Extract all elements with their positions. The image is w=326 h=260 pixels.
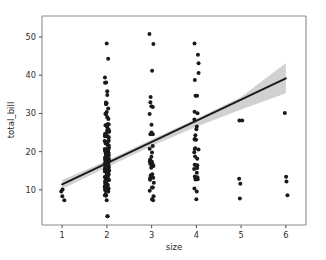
scatter-point [193,133,197,137]
scatter-point [194,138,198,142]
scatter-point [149,173,153,177]
scatter-point [105,89,109,93]
x-tick-label: 4 [194,230,199,240]
scatter-point [148,158,152,162]
scatter-point [104,112,108,116]
scatter-point [238,182,242,186]
scatter-point [149,166,153,170]
scatter-point [150,185,154,189]
scatter-point [151,198,155,202]
scatter-point [104,101,108,105]
y-axis-label: total_bill [6,102,16,139]
scatter-point [197,71,201,75]
scatter-point [196,53,200,57]
scatter-point [192,117,196,121]
scatter-point [284,175,288,179]
y-tick-label: 20 [26,147,36,157]
y-tick-label: 50 [26,32,36,42]
scatter-point [105,214,109,218]
scatter-point [283,111,287,115]
scatter-point [60,194,64,198]
scatter-point [148,112,152,116]
scatter-point [193,41,197,45]
scatter-point [195,163,199,167]
scatter-point [148,100,152,104]
scatter-point [104,194,108,198]
scatter-point [192,167,196,171]
scatter-point [285,193,289,197]
scatter-point [194,127,198,131]
scatter-point [150,151,154,155]
scatter-point [107,122,111,126]
scatter-point [151,42,155,46]
scatter-point [104,81,108,85]
scatter-point [106,172,110,176]
x-tick-label: 5 [239,230,244,240]
scatter-point [193,78,197,82]
plot-area-background [42,16,306,225]
scatter-point [103,134,107,138]
y-tick-label: 30 [26,108,36,118]
regression-scatter-plot: 1020304050 123456 size total_bill [0,0,326,260]
scatter-point [238,196,242,200]
scatter-point [195,171,199,175]
x-axis-label: size [166,242,183,252]
scatter-point [106,57,110,61]
x-tick-label: 2 [104,230,109,240]
scatter-point [193,155,197,159]
scatter-point [152,181,156,185]
scatter-point [105,42,109,46]
matplotlib-figure: 1020304050 123456 size total_bill [0,0,326,260]
scatter-point [237,119,241,123]
scatter-point [149,104,153,108]
scatter-point [62,198,66,202]
scatter-point [106,156,110,160]
scatter-point [107,160,111,164]
x-axis-ticks: 123456 [60,225,289,240]
scatter-point [59,190,63,194]
scatter-point [105,198,109,202]
scatter-point [197,148,201,152]
scatter-point [104,187,108,191]
scatter-point [148,189,152,193]
scatter-point [149,95,153,99]
x-tick-label: 1 [60,230,65,240]
scatter-point [197,61,201,65]
y-tick-label: 10 [26,185,36,195]
scatter-point [192,187,196,191]
scatter-point [195,94,199,98]
scatter-point [237,177,241,181]
scatter-point [107,139,111,143]
x-tick-label: 6 [283,230,288,240]
scatter-point [192,150,196,154]
scatter-point [147,32,151,36]
scatter-point [150,123,154,127]
y-tick-label: 40 [26,70,36,80]
scatter-point [105,93,109,97]
scatter-point [103,75,107,79]
scatter-point [148,147,152,151]
scatter-point [194,197,198,201]
y-axis-ticks: 1020304050 [26,32,42,195]
scatter-point [196,111,200,115]
scatter-point [103,179,107,183]
scatter-point [148,178,152,182]
scatter-point [195,175,199,179]
scatter-point [148,132,152,136]
scatter-point [103,165,107,169]
x-tick-label: 3 [149,230,154,240]
scatter-point [150,69,154,73]
scatter-point [107,128,111,132]
scatter-point [151,144,155,148]
scatter-point [104,149,108,153]
scatter-point [284,180,288,184]
scatter-point [148,162,152,166]
